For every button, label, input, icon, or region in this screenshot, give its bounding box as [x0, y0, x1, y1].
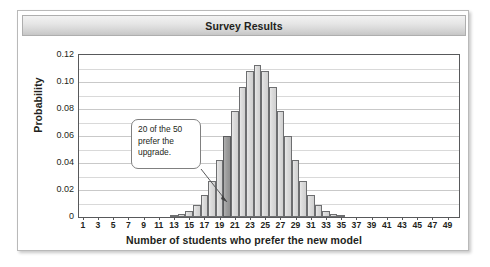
- x-axis-title: Number of students who prefer the new mo…: [18, 234, 470, 246]
- x-tick-label: 1: [80, 220, 85, 230]
- bar: [292, 160, 300, 217]
- x-tick-label: 35: [336, 220, 346, 230]
- chart-title-band: Survey Results: [22, 15, 466, 36]
- y-tick-label: 0.08: [56, 103, 74, 113]
- x-tick-label: 21: [230, 220, 240, 230]
- x-tick-label: 37: [352, 220, 362, 230]
- callout-bubble: 20 of the 50 prefer the upgrade.: [131, 119, 201, 169]
- bar-highlighted: [223, 136, 231, 217]
- x-tick-label: 7: [126, 220, 131, 230]
- x-tick-label: 41: [382, 220, 392, 230]
- x-tick-label: 29: [291, 220, 301, 230]
- x-tick-label: 13: [169, 220, 179, 230]
- x-tick-label: 9: [141, 220, 146, 230]
- bar: [315, 205, 323, 217]
- x-tick-label: 15: [184, 220, 194, 230]
- chart-figure-frame: Survey Results Probability 00.020.040.06…: [17, 10, 469, 251]
- x-tick-label: 39: [367, 220, 377, 230]
- bar: [307, 195, 315, 217]
- bar: [299, 181, 307, 217]
- bar: [277, 111, 285, 217]
- y-tick-label: 0.04: [56, 157, 74, 167]
- x-tick-label: 17: [200, 220, 210, 230]
- x-tick-label: 43: [397, 220, 407, 230]
- callout-line-2: prefer the: [138, 136, 195, 148]
- x-tick-label: 31: [306, 220, 316, 230]
- x-tick-label: 27: [276, 220, 286, 230]
- x-tick-label: 45: [412, 220, 422, 230]
- bar: [269, 87, 277, 217]
- bar: [208, 181, 216, 217]
- x-axis-tick-labels: 1357911131517192123252729313335373941434…: [78, 217, 460, 233]
- callout-line-1: 20 of the 50: [138, 124, 195, 136]
- bar: [239, 87, 247, 217]
- plot-area-wrapper: Probability 00.020.040.060.080.100.12 13…: [18, 37, 470, 252]
- bar: [261, 71, 269, 217]
- x-tick-label: 5: [111, 220, 116, 230]
- y-axis-tick-labels: 00.020.040.060.080.100.12: [42, 54, 74, 216]
- x-tick-label: 3: [96, 220, 101, 230]
- bar: [193, 205, 201, 217]
- y-tick-label: 0.06: [56, 130, 74, 140]
- page-title: Survey Results: [205, 20, 282, 32]
- callout-line-3: upgrade.: [138, 147, 195, 159]
- x-tick-label: 19: [215, 220, 225, 230]
- bar: [216, 160, 224, 217]
- x-tick-label: 47: [428, 220, 438, 230]
- y-tick-label: 0.10: [56, 76, 74, 86]
- callout-text: 20 of the 50 prefer the upgrade.: [138, 124, 195, 159]
- y-tick-label: 0.02: [56, 184, 74, 194]
- x-tick-label: 33: [321, 220, 331, 230]
- x-tick-label: 25: [260, 220, 270, 230]
- bar: [284, 136, 292, 217]
- bar: [254, 65, 262, 217]
- x-tick-label: 49: [443, 220, 453, 230]
- y-tick-label: 0.12: [56, 49, 74, 59]
- bar: [231, 111, 239, 217]
- bar: [246, 71, 254, 217]
- y-tick-label: 0: [69, 211, 74, 221]
- x-tick-label: 11: [154, 220, 163, 230]
- x-tick-label: 23: [245, 220, 255, 230]
- bar: [201, 195, 209, 217]
